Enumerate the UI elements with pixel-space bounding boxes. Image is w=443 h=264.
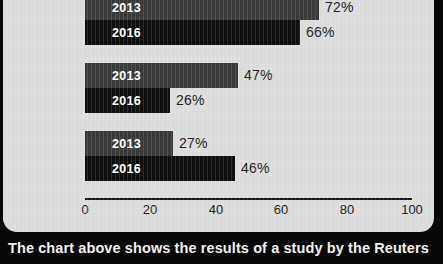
x-axis-line (85, 198, 412, 200)
panel-right-edge (434, 0, 443, 236)
bar-value-print-2013: 47% (244, 67, 273, 83)
x-tick-0: 0 (81, 202, 88, 217)
bar-value-social-media-2016: 46% (241, 160, 270, 176)
x-tick-40: 40 (209, 202, 223, 217)
panel-left-edge (0, 0, 3, 236)
caption-bar: The chart above shows the results of a s… (0, 236, 443, 264)
bar-series-label-2013: 2013 (112, 69, 141, 83)
bar-social-media-2016[interactable]: 2016 (85, 156, 235, 181)
x-tick-80: 80 (340, 202, 354, 217)
x-tick-20: 20 (143, 202, 157, 217)
bar-value-print-2016: 26% (176, 92, 205, 108)
bar-value-tv-2013: 72% (325, 0, 354, 15)
chart-panel: TV 2013 72% 2016 66% PRINT 2013 47% 201 (3, 0, 434, 232)
x-tick-60: 60 (274, 202, 288, 217)
bar-social-media-2013[interactable]: 2013 (85, 131, 173, 156)
bar-series-label-2013: 2013 (112, 1, 141, 15)
chart-screenshot: TV 2013 72% 2016 66% PRINT 2013 47% 201 (0, 0, 443, 264)
bar-print-2016[interactable]: 2016 (85, 88, 170, 113)
bar-series-label-2016: 2016 (112, 26, 141, 40)
bar-series-label-2016: 2016 (112, 162, 141, 176)
bar-series-label-2013: 2013 (112, 137, 141, 151)
bar-series-label-2016: 2016 (112, 94, 141, 108)
bar-tv-2013[interactable]: 2013 (85, 0, 319, 20)
plot-area: TV 2013 72% 2016 66% PRINT 2013 47% 201 (3, 0, 434, 232)
caption-text: The chart above shows the results of a s… (8, 240, 429, 256)
bar-tv-2016[interactable]: 2016 (85, 20, 300, 45)
bar-print-2013[interactable]: 2013 (85, 63, 238, 88)
x-tick-100: 100 (401, 202, 423, 217)
bar-value-tv-2016: 66% (306, 24, 335, 40)
bar-value-social-media-2013: 27% (179, 135, 208, 151)
